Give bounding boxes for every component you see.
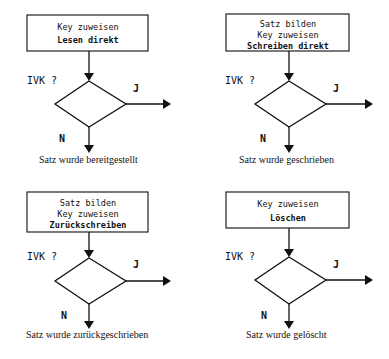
decision-question: IVK ? [225,75,255,86]
decision-diamond [255,257,326,304]
arrow-down-icon [84,73,94,81]
no-label: N [260,133,266,144]
arrow-down-icon [84,145,94,153]
yes-label: J [133,259,139,270]
result-caption: Satz wurde bereitgestellt [39,154,138,165]
box-line-operation: Schreiben direkt [247,41,329,51]
flowchart-loeschen: Key zuweisen Löschen IVK ? J N Satz wurd… [225,192,373,340]
process-box [27,15,148,51]
flowchart-schreiben-direkt: Satz bilden Key zuweisen Schreiben direk… [225,14,373,165]
box-line-operation: Lesen direkt [57,35,118,45]
flowchart-canvas: Key zuweisen Lesen direkt IVK ? J N Satz… [0,0,389,359]
arrow-right-icon [365,275,373,285]
arrow-right-icon [365,99,373,109]
box-line: Key zuweisen [257,30,318,40]
arrow-down-icon [284,73,294,81]
box-line-operation: Löschen [270,213,306,223]
decision-question: IVK ? [225,251,255,262]
no-label: N [261,310,267,321]
decision-question: IVK ? [27,251,57,262]
no-label: N [59,133,65,144]
box-line-operation: Zurückschreiben [50,220,127,230]
box-line: Key zuweisen [57,209,118,219]
result-caption: Satz wurde zurückgeschrieben [26,329,148,340]
arrow-down-icon [284,321,294,329]
arrow-down-icon [84,250,94,258]
result-caption: Satz wurde gelöscht [246,329,327,340]
yes-label: J [333,83,339,94]
box-line: Satz bilden [60,198,116,208]
arrow-down-icon [284,145,294,153]
box-line: Key zuweisen [57,22,118,32]
result-caption: Satz wurde geschrieben [239,154,334,165]
box-line: Satz bilden [260,19,316,29]
decision-diamond [55,81,126,127]
arrow-down-icon [284,249,294,257]
arrow-right-icon [163,99,171,109]
yes-label: J [333,259,339,270]
arrow-right-icon [163,276,171,286]
decision-diamond [255,81,326,127]
yes-label: J [133,83,139,94]
no-label: N [61,310,67,321]
decision-diamond [55,258,126,304]
box-line: Key zuweisen [257,199,318,209]
flowchart-zurueckschreiben: Satz bilden Key zuweisen Zurückschreiben… [26,192,171,340]
arrow-down-icon [84,321,94,329]
flowchart-lesen-direkt: Key zuweisen Lesen direkt IVK ? J N Satz… [27,15,171,165]
decision-question: IVK ? [27,75,57,86]
